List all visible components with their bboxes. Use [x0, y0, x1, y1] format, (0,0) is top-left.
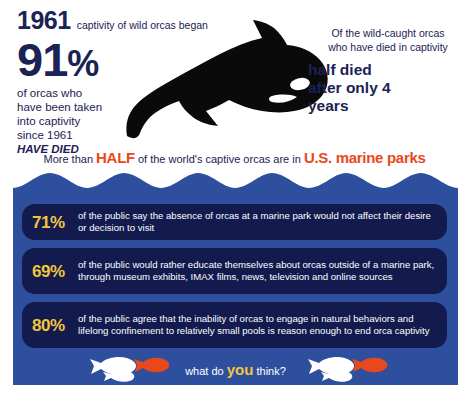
blue-wave-panel: 71% of the public say the absence of orc…	[13, 168, 458, 385]
cta-emphasis: you	[227, 361, 254, 378]
stat-text: of the public agree that the inability o…	[78, 313, 435, 338]
right-headline-line-1: half died	[308, 61, 468, 79]
half-middle: of the world's captive orcas are in	[135, 153, 304, 165]
half-prefix: More than	[43, 153, 96, 165]
stat-text: of the public say the absence of orcas a…	[78, 210, 435, 235]
top-section: 1961 captivity of wild orcas began 91% o…	[0, 0, 469, 145]
orca-captivity-infographic: 1961 captivity of wild orcas began 91% o…	[0, 0, 469, 413]
right-headline: half died after only 4 years	[308, 61, 468, 116]
panel-content: 71% of the public say the absence of orc…	[13, 168, 458, 385]
half-statement-line: More than HALF of the world's captive or…	[0, 149, 469, 166]
stat-percent: 71%	[32, 214, 78, 231]
stat-percent: 69%	[32, 263, 78, 280]
right-headline-line-3: years	[308, 97, 468, 115]
stat-pill: 69% of the public would rather educate t…	[22, 248, 447, 294]
half-emphasis-2: U.S. marine parks	[304, 149, 426, 166]
footer-fish-row: what do you think?	[13, 353, 458, 385]
cta-prefix: what do	[185, 365, 227, 377]
orca-silhouette-icon	[122, 18, 332, 143]
call-to-action-text: what do you think?	[13, 361, 458, 378]
right-lead-text: Of the wild-caught orcas who have died i…	[308, 27, 468, 55]
half-emphasis: HALF	[96, 149, 135, 166]
right-lead-line-1: Of the wild-caught orcas	[308, 27, 468, 41]
percent-symbol: %	[67, 43, 98, 84]
percent-number: 91	[17, 33, 67, 86]
stat-percent: 80%	[32, 317, 78, 334]
year-value: 1961	[17, 8, 71, 33]
right-statistics-block: Of the wild-caught orcas who have died i…	[308, 27, 468, 116]
stat-pill: 80% of the public agree that the inabili…	[22, 302, 447, 348]
cta-suffix: think?	[253, 365, 285, 377]
right-headline-line-2: after only 4	[308, 79, 468, 97]
stat-pill: 71% of the public say the absence of orc…	[22, 204, 447, 240]
stat-text: of the public would rather educate thems…	[78, 259, 435, 284]
right-lead-line-2: who have died in captivity	[308, 41, 468, 55]
